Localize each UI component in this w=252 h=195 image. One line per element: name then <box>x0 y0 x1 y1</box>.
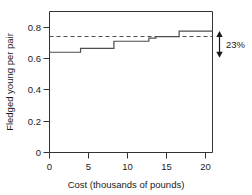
y-tick-label-1: 0.6 <box>28 53 41 64</box>
y-axis-title: Fledged young per pair <box>4 33 15 131</box>
x-tick-label-2: 10 <box>122 161 133 172</box>
annotation-arrowhead-top <box>216 31 222 37</box>
x-tick-label-3: 15 <box>161 161 172 172</box>
x-axis-title: Cost (thousands of pounds) <box>68 179 185 190</box>
y-tick-label-3: 0.2 <box>28 116 41 127</box>
step-chart: 0.8 0.6 0.4 0.2 0 0 5 10 15 20 <box>0 0 252 195</box>
percent-annotation: 23% <box>216 31 245 58</box>
chart-figure: 0.8 0.6 0.4 0.2 0 0 5 10 15 20 <box>0 0 252 195</box>
x-tick-label-4: 20 <box>200 161 211 172</box>
annotation-arrowhead-bottom <box>216 52 222 58</box>
x-tick-label-1: 5 <box>86 161 91 172</box>
y-tick-label-0: 0.8 <box>28 22 41 33</box>
step-function-line <box>50 31 213 52</box>
plot-frame <box>50 12 213 153</box>
x-axis-ticks <box>50 153 206 159</box>
annotation-percent-label: 23% <box>226 39 246 50</box>
y-axis-tick-labels: 0.8 0.6 0.4 0.2 0 <box>28 22 41 158</box>
y-axis-ticks <box>44 28 50 153</box>
x-tick-label-0: 0 <box>47 161 52 172</box>
y-tick-label-2: 0.4 <box>28 84 41 95</box>
y-tick-label-4: 0 <box>36 147 41 158</box>
x-axis-tick-labels: 0 5 10 15 20 <box>47 161 211 172</box>
